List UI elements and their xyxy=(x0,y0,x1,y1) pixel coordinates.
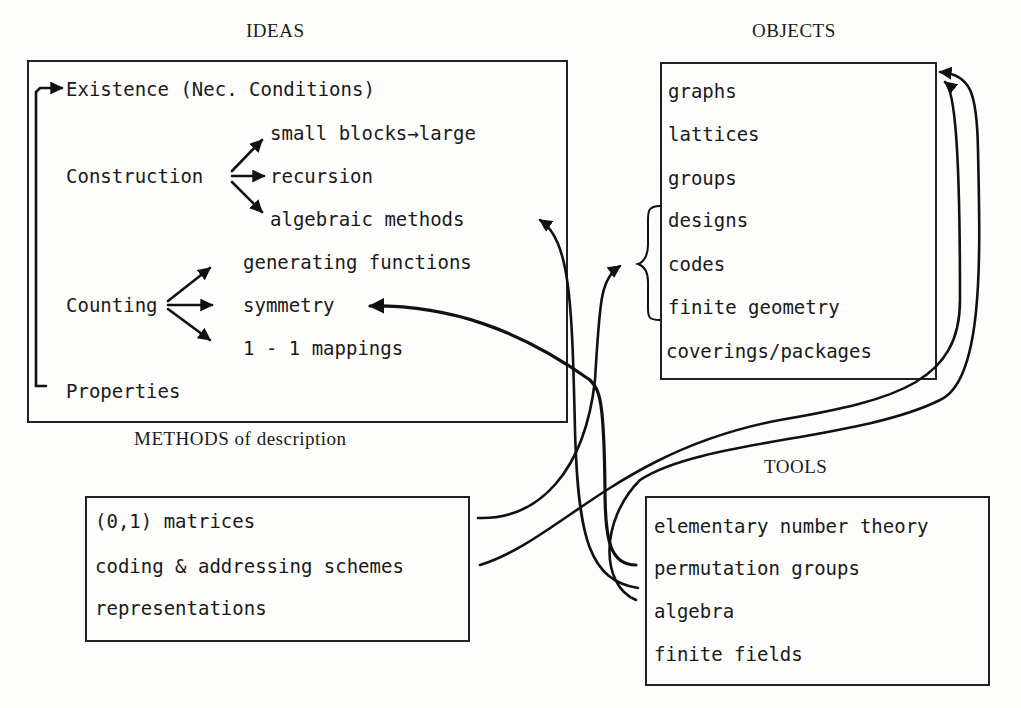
objects-brace xyxy=(638,206,660,320)
algebra-to-graphs xyxy=(609,72,979,600)
coding-to-graphs xyxy=(480,82,960,565)
counting-arrow xyxy=(168,309,210,340)
algebra-to-algebraic-methods xyxy=(540,220,638,588)
existence-bracket-arrow xyxy=(36,88,62,386)
construction-arrow xyxy=(232,182,262,212)
counting-arrow xyxy=(168,268,210,301)
connector-layer xyxy=(0,0,1021,708)
construction-arrow xyxy=(232,140,262,171)
